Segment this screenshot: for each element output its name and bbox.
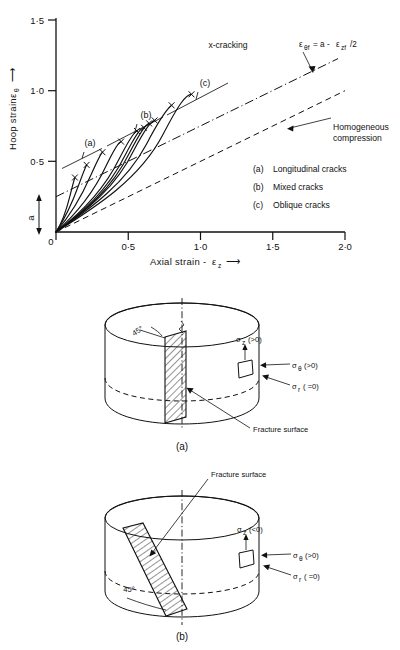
failure-eq-main: = a - <box>313 40 330 49</box>
x-axis-title-symbol: ε <box>212 256 217 267</box>
diagram-a-sigma-r-condition: ( =0) <box>303 382 319 391</box>
diagram-a-sigma-theta-symbol: σ <box>292 361 297 370</box>
diagram-b-sigma-r-symbol: σ <box>293 572 298 581</box>
y-axis-title-arrow: ⟶ <box>7 68 18 82</box>
intercept-label: a <box>25 215 36 221</box>
diagram-b-sigma-z-condition: (<0) <box>249 525 263 534</box>
legend-label-b: Mixed cracks <box>273 182 323 192</box>
diagram-b-sigma-z-symbol: σ <box>237 525 242 534</box>
diagram-b-fracture-label: Fracture surface <box>211 470 266 479</box>
x-axis-title-arrow: ⟶ <box>226 256 240 267</box>
legend-key-c: (c) <box>253 200 263 210</box>
figure-root: 1·5 1·0 0·5 0 0·5 1·0 1·5 2·0 Axial stra… <box>0 0 400 650</box>
diagram-b-sigma-theta-subscript: θ <box>299 555 303 562</box>
x-tick-label-2.0: 2·0 <box>338 241 352 252</box>
diagram-a-sigma-r-symbol: σ <box>292 382 297 391</box>
x-axis-title-subscript: z <box>218 262 221 269</box>
x-tick-label-1.0: 1·0 <box>194 241 208 252</box>
failure-eq-subscript-1: θf <box>304 44 310 51</box>
legend-key-b: (b) <box>253 182 264 192</box>
diagram-a-caption: (a) <box>176 441 188 452</box>
x-axis-title-text: Axial strain - <box>150 256 206 267</box>
diagram-a-sigma-theta-subscript: θ <box>298 365 302 372</box>
diagram-b-sigma-theta-symbol: σ <box>293 551 298 560</box>
x-cracking-label: x-cracking <box>208 40 247 50</box>
legend-key-a: (a) <box>253 164 264 174</box>
diagram-b-sigma-z-subscript: z <box>243 529 246 536</box>
diagram-a-fracture-surface <box>165 331 186 423</box>
diagram-b-angle-label: 45° <box>123 585 134 594</box>
legend-label-c: Oblique cracks <box>273 200 330 210</box>
y-tick-label-0: 0 <box>48 236 53 247</box>
y-tick-label-0.5: 0·5 <box>30 156 44 167</box>
homogeneous-label-line2: compression <box>333 133 382 143</box>
y-axis-title-text: Hoop strain <box>7 98 18 150</box>
diagram-a-sigma-z-condition: (>0) <box>248 335 262 344</box>
failure-eq-subscript-2: zf <box>341 44 346 51</box>
diagram-a-sigma-z-symbol: σ <box>236 335 241 344</box>
group-label-c: (c) <box>200 78 211 88</box>
diagram-a-sigma-theta-condition: (>0) <box>304 361 318 370</box>
legend-label-a: Longitudinal cracks <box>273 164 347 174</box>
diagram-b-sigma-theta-condition: (>0) <box>305 551 319 560</box>
group-label-b: (b) <box>141 110 152 120</box>
y-tick-label-1.0: 1·0 <box>30 85 44 96</box>
failure-eq-symbol-1: ε <box>299 40 303 49</box>
diagram-b-sigma-r-condition: ( =0) <box>304 572 320 581</box>
diagram-a-fracture-label: Fracture surface <box>253 425 308 434</box>
y-tick-label-1.5: 1·5 <box>30 15 44 26</box>
group-label-a: (a) <box>85 138 96 148</box>
y-axis-title-symbol: ε <box>7 93 18 98</box>
diagram-a-sigma-z-subscript: z <box>242 339 245 346</box>
x-tick-label-0.5: 0·5 <box>121 241 135 252</box>
x-tick-label-1.5: 1·5 <box>266 241 280 252</box>
failure-eq-tail: /2 <box>350 40 357 49</box>
failure-eq-symbol-2: ε <box>336 40 340 49</box>
y-axis-title-subscript: θ <box>13 88 20 92</box>
diagram-b-caption: (b) <box>176 631 188 642</box>
homogeneous-label-line1: Homogeneous <box>333 122 389 132</box>
